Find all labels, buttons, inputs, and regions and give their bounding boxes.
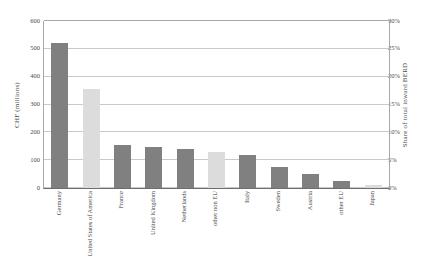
plot-area [43,21,390,189]
y-axis-left-tick-label: 0 [18,185,40,192]
x-label-slot: Germany [43,189,74,277]
bar-slot [107,21,138,188]
x-axis-tick-label: Sweden [275,191,282,212]
x-label-slot: Sweden [263,189,294,277]
y-axis-left-tick-label: 300 [18,101,40,108]
bar[interactable] [239,155,256,188]
bar-slot [232,21,263,188]
bar[interactable] [333,181,350,188]
bar-slot [295,21,326,188]
y-axis-right-tick-label: 5% [388,157,412,164]
bar-slot [358,21,389,188]
x-axis-tick-label: Italy [244,191,251,203]
bar[interactable] [177,149,194,188]
y-axis-left-tick-label: 100 [18,157,40,164]
bars-layer [44,21,389,188]
x-axis-tick-label: Germany [55,191,62,215]
bar-slot [326,21,357,188]
x-axis-tick-label: other EU [338,191,345,215]
bar[interactable] [365,185,382,188]
x-label-slot: Austria [294,189,325,277]
x-axis-tick-label: Austria [306,191,313,210]
y-axis-left-tick-label: 600 [18,18,40,25]
y-axis-right-tick-label: 20% [388,73,412,80]
bar[interactable] [83,89,100,188]
x-axis-tick-label: France [118,191,125,209]
x-label-slot: Netherlands [168,189,199,277]
y-axis-right-tick-label: 15% [388,101,412,108]
x-axis-tick-label: Japan [369,191,376,206]
bar-slot [138,21,169,188]
bar[interactable] [302,174,319,188]
bar[interactable] [208,152,225,188]
y-axis-right-tick-label: 10% [388,129,412,136]
x-axis-labels: GermanyUnited States of AmericaFranceUni… [43,189,388,277]
x-label-slot: United States of America [74,189,105,277]
bar-slot [44,21,75,188]
y-axis-left-tick-label: 400 [18,73,40,80]
bar-slot [75,21,106,188]
bar-slot [201,21,232,188]
bar[interactable] [114,145,131,188]
x-axis-tick-label: United States of America [87,191,94,257]
x-axis-tick-label: other non EU [212,191,219,226]
x-label-slot: Japan [357,189,388,277]
y-axis-right-tick-label: 30% [388,18,412,25]
x-label-slot: other EU [325,189,356,277]
y-axis-left-ticks: 0100200300400500600 [16,0,40,278]
y-axis-left-tick-label: 200 [18,129,40,136]
bar[interactable] [145,147,162,188]
y-axis-right-tick-label: 25% [388,45,412,52]
x-axis-tick-label: Netherlands [181,191,188,222]
bar[interactable] [271,167,288,188]
bar-chart-figure: CHF (millions) Share of total inward BER… [0,0,428,278]
x-label-slot: Italy [231,189,262,277]
x-label-slot: United Kingdom [137,189,168,277]
bar-slot [169,21,200,188]
x-label-slot: France [106,189,137,277]
y-axis-right-tick-label: 0% [388,185,412,192]
x-label-slot: other non EU [200,189,231,277]
x-axis-tick-label: United Kingdom [150,191,157,235]
bar-slot [264,21,295,188]
bar[interactable] [51,43,68,188]
y-axis-right-ticks: 0%5%10%15%20%25%30% [388,0,414,278]
y-axis-left-tick-label: 500 [18,45,40,52]
